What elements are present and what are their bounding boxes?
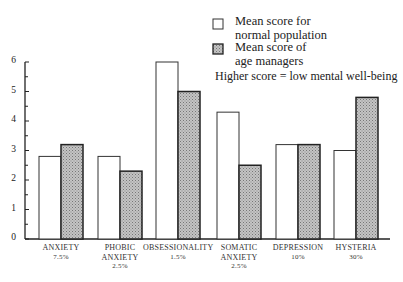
y-tick-label: 0 — [4, 232, 16, 242]
bar-managers — [298, 145, 320, 239]
legend-label-managers-line2: age managers — [235, 54, 307, 68]
bar-managers — [178, 92, 200, 240]
y-tick-label: 1 — [4, 203, 16, 213]
legend-label-normal-line1: Mean score for — [235, 14, 327, 28]
legend-swatch-managers — [213, 44, 223, 54]
bar-normal — [334, 151, 356, 240]
bar-normal — [39, 156, 61, 239]
legend-item-normal: Mean score for normal population — [235, 14, 327, 42]
legend-item-managers: Mean score of age managers — [235, 40, 307, 68]
y-tick-label: 2 — [4, 173, 16, 183]
bar-managers — [61, 145, 83, 239]
bar-normal — [98, 156, 120, 239]
x-category-label: HYSTERIA30% — [321, 243, 391, 262]
x-category-label: OBSESSIONALITY1.5% — [143, 243, 213, 262]
bar-normal — [276, 145, 298, 239]
y-tick-label: 6 — [4, 55, 16, 65]
bar-managers — [356, 97, 378, 239]
legend-swatches — [213, 19, 223, 54]
legend-label-managers-line1: Mean score of — [235, 40, 307, 54]
bar-managers — [239, 165, 261, 239]
bar-normal — [217, 112, 239, 239]
bar-normal — [156, 62, 178, 239]
y-tick-label: 4 — [4, 114, 16, 124]
bars — [39, 62, 378, 239]
y-tick-label: 5 — [4, 85, 16, 95]
legend-swatch-normal — [213, 19, 223, 29]
chart-annotation: Higher score = low mental well-being — [215, 69, 397, 84]
bar-chart — [0, 0, 403, 282]
y-tick-label: 3 — [4, 144, 16, 154]
bar-managers — [120, 171, 142, 239]
